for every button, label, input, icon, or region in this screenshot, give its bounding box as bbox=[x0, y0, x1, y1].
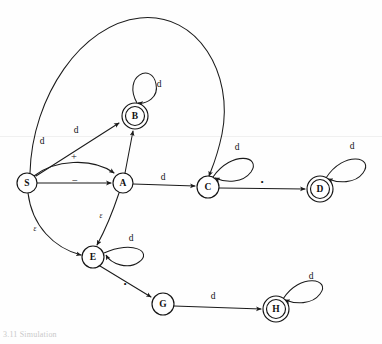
edge-label-s-to-c: d bbox=[40, 136, 45, 146]
edge-label-a-to-e: ε bbox=[100, 211, 103, 220]
state-node-a[interactable]: A bbox=[113, 173, 133, 193]
state-node-d[interactable]: D bbox=[307, 176, 333, 202]
edge-label-d-self: d bbox=[350, 141, 355, 151]
edge-s-to-c bbox=[30, 18, 224, 176]
edge-label-s-to-a-minus: − bbox=[72, 175, 78, 186]
edge-label-h-self: d bbox=[309, 271, 314, 281]
state-c-circle bbox=[197, 176, 219, 198]
edge-s-to-a-plus bbox=[34, 162, 114, 176]
state-h-circle-inner bbox=[267, 300, 286, 319]
figure-caption-band: 3.11 Simulation bbox=[0, 331, 382, 344]
edge-label-c-to-d: . bbox=[260, 171, 263, 186]
edge-a-to-c bbox=[133, 184, 195, 186]
loop-d-self bbox=[326, 159, 366, 182]
nodes-layer: S B A C D bbox=[17, 103, 333, 322]
state-g-circle bbox=[152, 293, 174, 315]
state-node-c[interactable]: C bbox=[197, 176, 219, 198]
edge-s-to-e bbox=[28, 193, 81, 255]
edge-label-b-self: d bbox=[157, 79, 162, 89]
state-node-s[interactable]: S bbox=[17, 173, 37, 193]
edge-g-to-h bbox=[174, 306, 261, 309]
loop-c-self bbox=[213, 158, 253, 181]
figure-caption: 3.11 Simulation bbox=[3, 331, 57, 339]
automaton-canvas: S B A C D bbox=[0, 0, 382, 344]
state-e-circle bbox=[82, 246, 104, 268]
state-node-g[interactable]: G bbox=[152, 293, 174, 315]
state-node-e[interactable]: E bbox=[82, 246, 104, 268]
edge-label-s-to-b: d bbox=[74, 125, 79, 135]
edge-label-e-self: d bbox=[129, 233, 134, 243]
state-s-circle bbox=[17, 173, 37, 193]
state-a-circle bbox=[113, 173, 133, 193]
loop-h-self bbox=[283, 281, 323, 303]
loop-e-self bbox=[104, 247, 144, 265]
state-node-h[interactable]: H bbox=[263, 296, 289, 322]
edge-label-s-to-e: ε bbox=[34, 224, 37, 233]
edge-c-to-d bbox=[219, 188, 305, 189]
edge-e-to-g bbox=[100, 266, 151, 297]
edge-label-a-to-c: d bbox=[161, 172, 166, 182]
state-b-circle-inner bbox=[126, 107, 145, 126]
state-d-circle-inner bbox=[311, 180, 330, 199]
edge-label-g-to-h: d bbox=[211, 291, 216, 301]
edge-a-to-e bbox=[97, 193, 119, 245]
edge-label-c-self: d bbox=[235, 142, 240, 152]
automaton-figure: S B A C D bbox=[0, 0, 382, 344]
edge-a-to-b bbox=[125, 131, 133, 173]
loop-b-self bbox=[133, 73, 157, 103]
edges-layer bbox=[28, 18, 366, 309]
state-node-b[interactable]: B bbox=[122, 103, 148, 129]
